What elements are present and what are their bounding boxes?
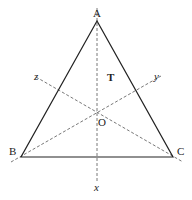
vertex-label-C: C [177, 145, 184, 157]
region-label-T: T [107, 71, 115, 83]
vertex-label-B: B [9, 145, 16, 157]
axis-y-line [11, 76, 161, 162]
axis-label-x: x [93, 181, 99, 193]
axis-label-z: z [33, 70, 39, 82]
diagram-canvas: A B C O T x y z [0, 0, 192, 200]
axis-label-y: y [153, 70, 159, 82]
vertex-label-A: A [93, 7, 101, 19]
triangle-diagram: A B C O T x y z [0, 0, 192, 200]
center-label-O: O [98, 116, 106, 128]
